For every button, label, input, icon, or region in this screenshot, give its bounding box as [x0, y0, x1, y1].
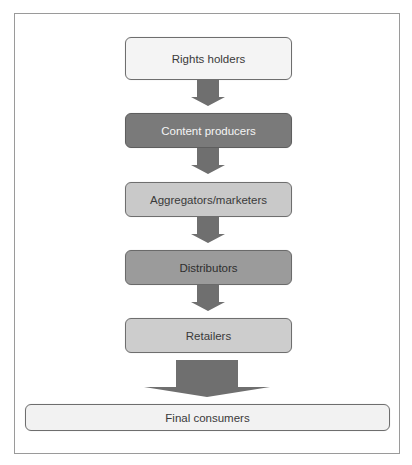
node-label: Final consumers [165, 412, 249, 424]
node-rights-holders: Rights holders [125, 37, 292, 80]
node-distributors: Distributors [125, 250, 292, 285]
down-arrow-icon [190, 285, 226, 312]
down-arrow-icon [190, 80, 226, 107]
node-content-producers: Content producers [125, 113, 292, 148]
node-label: Retailers [186, 330, 231, 342]
node-label: Rights holders [172, 53, 246, 65]
node-retailers: Retailers [125, 318, 292, 353]
node-label: Distributors [179, 262, 237, 274]
node-label: Content producers [161, 125, 256, 137]
node-final-consumers: Final consumers [25, 404, 390, 431]
down-arrow-icon [190, 148, 226, 175]
node-label: Aggregators/marketers [150, 194, 267, 206]
node-aggregators-marketers: Aggregators/marketers [125, 182, 292, 217]
wide-down-arrow-icon [143, 360, 271, 398]
down-arrow-icon [190, 217, 226, 244]
